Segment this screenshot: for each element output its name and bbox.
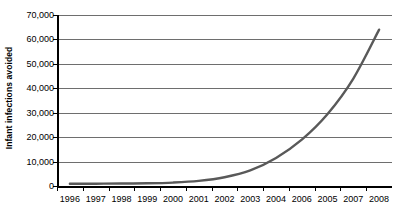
y-axis-tick-mark [53, 88, 57, 89]
x-axis-tick-label: 2006 [292, 194, 312, 204]
x-axis-tick-label: 2004 [266, 194, 286, 204]
x-axis-tick-mark [340, 187, 341, 191]
data-curve [0, 0, 410, 222]
y-axis-tick-mark [53, 64, 57, 65]
y-axis-tick-mark [53, 137, 57, 138]
x-axis-tick-label: 2001 [189, 194, 209, 204]
x-axis-tick-label: 2005 [318, 194, 338, 204]
chart-screenshot: Infant infections avoided 010,00020,0003… [0, 0, 410, 222]
x-axis-tick-label: 1998 [111, 194, 131, 204]
x-axis-tick-mark [186, 187, 187, 191]
x-axis-tick-mark [315, 187, 316, 191]
x-axis-tick-mark [83, 187, 84, 191]
y-axis-tick-mark [53, 162, 57, 163]
x-axis-tick-mark [109, 187, 110, 191]
x-axis-tick-mark [57, 187, 58, 191]
y-axis-tick-mark [53, 113, 57, 114]
y-axis-tick-mark [53, 39, 57, 40]
x-axis-tick-label: 2008 [369, 194, 389, 204]
x-axis-tick-mark [237, 187, 238, 191]
x-axis-tick-mark [134, 187, 135, 191]
x-axis-tick-label: 2007 [343, 194, 363, 204]
x-axis-tick-mark [289, 187, 290, 191]
x-axis-tick-label: 2003 [240, 194, 260, 204]
x-axis-tick-label: 2000 [163, 194, 183, 204]
x-axis-tick-label: 1997 [86, 194, 106, 204]
x-axis-tick-mark [366, 187, 367, 191]
x-axis-tick-mark [160, 187, 161, 191]
x-axis-tick-mark [212, 187, 213, 191]
y-axis-tick-mark [53, 15, 57, 16]
x-axis-tick-mark [263, 187, 264, 191]
x-axis-tick-label: 2002 [214, 194, 234, 204]
x-axis-tick-label: 1996 [60, 194, 80, 204]
x-axis-tick-label: 1999 [137, 194, 157, 204]
data-curve-path [70, 30, 379, 184]
